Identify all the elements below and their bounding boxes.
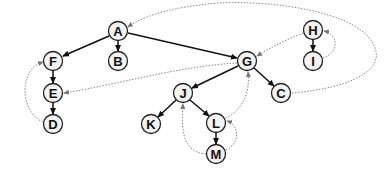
node-label: I <box>311 54 315 69</box>
node-e: E <box>44 84 63 103</box>
edge-solid-j-l <box>190 100 209 116</box>
node-g: G <box>238 52 257 71</box>
edge-dotted-l-g <box>226 72 248 118</box>
nodes: ABFEDGCHIJKLM <box>44 21 323 164</box>
node-l: L <box>207 114 226 133</box>
edge-solid-a-g <box>128 33 237 58</box>
node-label: K <box>146 117 156 132</box>
edge-dotted-d-f <box>25 62 43 122</box>
node-label: M <box>211 147 222 162</box>
node-label: E <box>49 86 58 101</box>
node-a: A <box>109 22 128 41</box>
edge-dotted-i-h <box>323 31 335 58</box>
edge-solid-g-c <box>254 68 274 86</box>
node-i: I <box>304 52 323 71</box>
edge-solid-j-k <box>158 100 176 117</box>
node-label: J <box>179 86 186 101</box>
dotted-edges <box>25 3 376 154</box>
graph-svg: ABFEDGCHIJKLM <box>0 0 392 172</box>
node-label: F <box>49 54 57 69</box>
node-f: F <box>44 52 63 71</box>
node-label: L <box>212 116 220 131</box>
edge-dotted-g-e <box>64 63 237 93</box>
edge-dotted-m-l <box>226 121 237 150</box>
node-h: H <box>304 21 323 40</box>
edge-solid-a-f <box>63 36 109 56</box>
edge-dotted-c-a <box>128 3 376 93</box>
edge-dotted-m-j <box>183 104 206 154</box>
node-j: J <box>174 84 193 103</box>
node-c: C <box>272 84 291 103</box>
graph-diagram: ABFEDGCHIJKLM <box>0 0 392 172</box>
node-label: A <box>113 24 123 39</box>
edge-dotted-h-g <box>257 33 303 56</box>
edge-solid-g-j <box>192 66 238 88</box>
node-m: M <box>207 145 226 164</box>
node-label: D <box>48 117 57 132</box>
node-label: C <box>276 86 286 101</box>
node-k: K <box>142 115 161 134</box>
node-label: H <box>308 23 317 38</box>
node-b: B <box>109 52 128 71</box>
node-label: B <box>113 54 122 69</box>
node-label: G <box>242 54 252 69</box>
node-d: D <box>44 115 63 134</box>
